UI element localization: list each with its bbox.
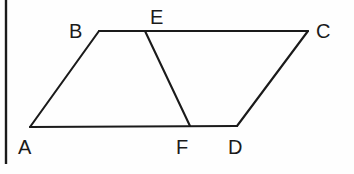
vertex-label-d: D bbox=[228, 136, 242, 158]
vertex-label-a: A bbox=[18, 136, 32, 158]
vertex-label-b: B bbox=[69, 20, 82, 42]
vertex-label-f: F bbox=[176, 136, 188, 158]
geometry-figure: A B C D E F bbox=[0, 0, 354, 174]
vertex-label-e: E bbox=[150, 6, 163, 28]
segment-ef bbox=[145, 31, 190, 126]
segment-ad bbox=[30, 126, 237, 127]
segment-ab bbox=[30, 31, 99, 127]
segment-cd bbox=[237, 31, 308, 126]
vertex-label-c: C bbox=[316, 20, 330, 42]
figure-canvas: A B C D E F bbox=[0, 0, 354, 174]
